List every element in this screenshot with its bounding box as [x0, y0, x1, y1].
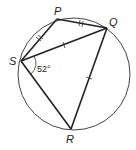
label-s: S: [9, 55, 17, 67]
label-r: R: [66, 133, 74, 145]
label-p: P: [54, 5, 62, 17]
angle-label: 52°: [37, 64, 51, 74]
geometry-figure: P Q S R 52°: [0, 0, 136, 150]
label-q: Q: [109, 16, 118, 28]
angle-arc-s: [31, 56, 36, 74]
segment-qr: [71, 28, 107, 129]
diagram: P Q S R 52°: [0, 0, 136, 150]
circumcircle: [18, 18, 130, 130]
